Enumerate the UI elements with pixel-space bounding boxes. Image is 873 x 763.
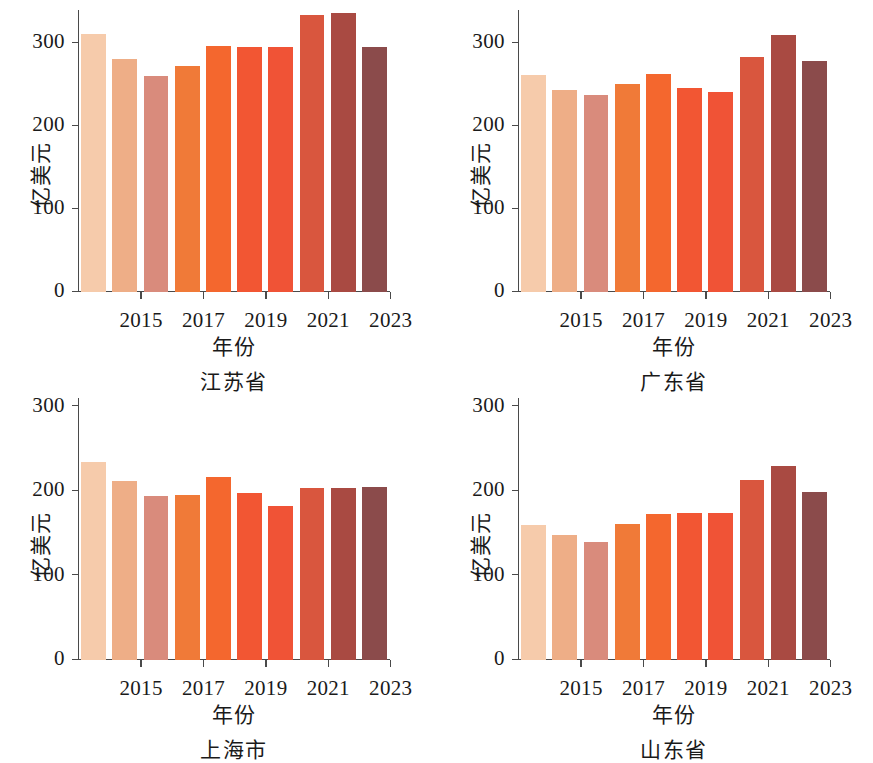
x-tick: 2019 (265, 292, 266, 299)
x-tick-label: 2021 (307, 678, 350, 699)
bar (584, 542, 609, 660)
x-tick: 2017 (643, 660, 644, 667)
bar (740, 57, 765, 292)
bar (677, 88, 702, 292)
y-tick-label: 0 (54, 280, 65, 301)
bar (206, 46, 231, 292)
y-tick: 300 (72, 405, 78, 406)
y-tick: 200 (72, 490, 78, 491)
x-tick: 2019 (265, 660, 266, 667)
x-tick-label: 2023 (369, 678, 412, 699)
plot-area: 0100200300 20152017201920212023 (78, 10, 390, 292)
bar-group (78, 398, 390, 660)
y-tick-label: 300 (472, 32, 505, 53)
bar (740, 480, 765, 660)
x-tick-label: 2017 (182, 310, 225, 331)
y-tick-label: 100 (32, 197, 65, 218)
x-tick: 2023 (830, 292, 831, 299)
x-tick-label: 2015 (559, 310, 602, 331)
y-tick: 300 (72, 42, 78, 43)
x-tick: 2023 (830, 660, 831, 667)
y-tick: 100 (512, 574, 518, 575)
bar (237, 493, 262, 660)
bar (175, 495, 200, 660)
bar (175, 66, 200, 292)
x-tick-label: 2023 (369, 310, 412, 331)
bar (112, 59, 137, 292)
x-tick: 2021 (768, 660, 769, 667)
y-tick-label: 200 (472, 115, 505, 136)
y-tick-label: 300 (32, 395, 65, 416)
bar (584, 95, 609, 292)
bar (677, 513, 702, 660)
x-tick: 2017 (203, 660, 204, 667)
panel-shandong: 亿美元 0100200300 20152017201920212023 年份 山… (440, 380, 873, 745)
x-tick-label: 2021 (747, 310, 790, 331)
y-tick: 300 (512, 405, 518, 406)
x-tick: 2017 (643, 292, 644, 299)
x-tick: 2023 (390, 292, 391, 299)
bar-group (78, 10, 390, 292)
bar (237, 47, 262, 293)
y-tick: 0 (72, 291, 78, 292)
x-tick-label: 2019 (684, 310, 727, 331)
bar (300, 488, 325, 660)
x-tick-label: 2019 (244, 678, 287, 699)
bar (268, 47, 293, 292)
bar (771, 466, 796, 660)
y-tick-label: 200 (32, 479, 65, 500)
plot-area: 0100200300 20152017201920212023 (518, 398, 830, 660)
bar (362, 47, 387, 293)
panel-title: 山东省 (518, 733, 830, 763)
x-tick-label: 2017 (622, 678, 665, 699)
x-tick: 2017 (203, 292, 204, 299)
x-tick-label: 2021 (307, 310, 350, 331)
bar (615, 84, 640, 292)
x-tick-label: 2017 (182, 678, 225, 699)
x-tick-label: 2019 (684, 678, 727, 699)
x-axis-label: 年份 (518, 698, 830, 728)
x-tick-label: 2021 (747, 678, 790, 699)
y-tick: 100 (512, 208, 518, 209)
x-axis-label: 年份 (78, 698, 390, 728)
x-axis-label: 年份 (518, 330, 830, 360)
bar (144, 76, 169, 292)
x-tick: 2021 (768, 292, 769, 299)
y-tick: 200 (72, 125, 78, 126)
bar (521, 525, 546, 660)
bar (552, 90, 577, 292)
y-tick: 200 (512, 125, 518, 126)
y-tick-label: 300 (472, 395, 505, 416)
x-axis-label: 年份 (78, 330, 390, 360)
y-tick: 200 (512, 490, 518, 491)
bar (771, 35, 796, 292)
x-tick-label: 2015 (119, 310, 162, 331)
x-tick: 2019 (705, 292, 706, 299)
panel-guangdong: 亿美元 0100200300 20152017201920212023 年份 广… (440, 0, 873, 380)
x-tick: 2015 (140, 660, 141, 667)
x-tick: 2023 (390, 660, 391, 667)
x-tick-label: 2023 (809, 678, 852, 699)
y-tick: 0 (512, 659, 518, 660)
panel-title: 上海市 (78, 733, 390, 763)
x-tick-label: 2017 (622, 310, 665, 331)
bar-group (518, 10, 830, 292)
y-tick-label: 300 (32, 32, 65, 53)
x-tick: 2021 (328, 660, 329, 667)
y-tick-label: 200 (472, 479, 505, 500)
bar (552, 535, 577, 660)
x-tick: 2015 (580, 660, 581, 667)
x-tick-label: 2015 (119, 678, 162, 699)
bar (81, 34, 106, 292)
y-tick-label: 0 (494, 280, 505, 301)
y-tick-label: 100 (472, 564, 505, 585)
bar (331, 13, 356, 293)
panel-jiangsu: 亿美元 0100200300 20152017201920212023 年份 江… (0, 0, 440, 380)
y-tick-label: 100 (472, 197, 505, 218)
y-tick: 100 (72, 208, 78, 209)
bar (708, 92, 733, 292)
panel-shanghai: 亿美元 0100200300 20152017201920212023 年份 上… (0, 380, 440, 745)
x-tick: 2021 (328, 292, 329, 299)
x-tick: 2019 (705, 660, 706, 667)
